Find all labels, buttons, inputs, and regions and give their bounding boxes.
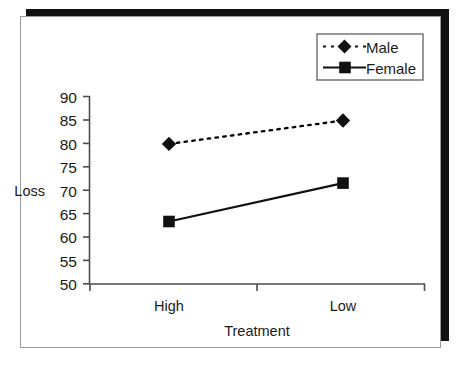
y-tick-label-60: 60 [47,230,77,246]
legend-label-male: Male [366,40,399,55]
y-tick-label-70: 70 [47,184,77,200]
y-tick-label-55: 55 [47,254,77,270]
x-tick-label-high: High [129,299,209,314]
x-tick-label-low: Low [303,299,383,314]
x-axis-title: Treatment [187,324,327,339]
series-line-female [169,183,343,221]
data-point-female-high [163,216,175,228]
x-axis-ticks [90,284,425,291]
y-tick-label-65: 65 [47,207,77,223]
figure-root: 90 85 80 75 70 65 60 55 50 Loss High Low… [0,0,466,368]
legend-marker-female [339,62,351,74]
data-point-female-low [337,177,349,189]
legend-label-female: Female [366,61,416,76]
data-point-male-high [162,137,176,151]
figure-shadow-right [440,9,449,341]
y-tick-label-85: 85 [47,113,77,129]
data-point-male-low [336,113,350,127]
y-tick-label-50: 50 [47,277,77,293]
y-tick-label-80: 80 [47,137,77,153]
y-axis-title: Loss [1,184,45,199]
y-tick-label-75: 75 [47,160,77,176]
y-tick-label-90: 90 [47,90,77,106]
series-line-male [169,121,343,144]
chart-panel: 90 85 80 75 70 65 60 55 50 Loss High Low… [20,16,441,348]
y-axis-ticks [83,97,90,284]
